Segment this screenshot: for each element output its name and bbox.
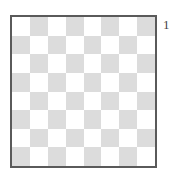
board-square[interactable] bbox=[119, 147, 137, 166]
board-square[interactable] bbox=[101, 54, 119, 73]
board-square[interactable] bbox=[30, 147, 48, 166]
board-square[interactable] bbox=[48, 36, 66, 55]
board-square[interactable] bbox=[12, 92, 30, 111]
board-square[interactable] bbox=[119, 129, 137, 148]
board-square[interactable] bbox=[119, 54, 137, 73]
board-square[interactable] bbox=[12, 17, 30, 36]
board-square[interactable] bbox=[30, 36, 48, 55]
board-square[interactable] bbox=[30, 129, 48, 148]
board-square[interactable] bbox=[84, 110, 102, 129]
board-square[interactable] bbox=[30, 17, 48, 36]
board-square[interactable] bbox=[48, 73, 66, 92]
board-square[interactable] bbox=[119, 92, 137, 111]
board-square[interactable] bbox=[66, 92, 84, 111]
board-square[interactable] bbox=[66, 17, 84, 36]
board-square[interactable] bbox=[137, 54, 155, 73]
board-square[interactable] bbox=[137, 92, 155, 111]
board-square[interactable] bbox=[48, 17, 66, 36]
board-square[interactable] bbox=[48, 147, 66, 166]
board-square[interactable] bbox=[101, 110, 119, 129]
board-square[interactable] bbox=[48, 110, 66, 129]
board-square[interactable] bbox=[66, 129, 84, 148]
board-square[interactable] bbox=[84, 73, 102, 92]
board-square[interactable] bbox=[137, 129, 155, 148]
board-square[interactable] bbox=[101, 73, 119, 92]
board-square[interactable] bbox=[84, 54, 102, 73]
board-square[interactable] bbox=[66, 147, 84, 166]
board-square[interactable] bbox=[48, 54, 66, 73]
board-square[interactable] bbox=[137, 36, 155, 55]
board-square[interactable] bbox=[12, 110, 30, 129]
checkerboard bbox=[10, 15, 157, 168]
board-square[interactable] bbox=[101, 17, 119, 36]
board-square[interactable] bbox=[137, 110, 155, 129]
board-square[interactable] bbox=[101, 36, 119, 55]
board-square[interactable] bbox=[66, 36, 84, 55]
board-square[interactable] bbox=[119, 73, 137, 92]
board-square[interactable] bbox=[12, 73, 30, 92]
board-square[interactable] bbox=[30, 54, 48, 73]
board-square[interactable] bbox=[30, 92, 48, 111]
board-square[interactable] bbox=[119, 36, 137, 55]
board-square[interactable] bbox=[119, 17, 137, 36]
board-square[interactable] bbox=[30, 73, 48, 92]
board-square[interactable] bbox=[84, 92, 102, 111]
board-square[interactable] bbox=[101, 92, 119, 111]
board-square[interactable] bbox=[66, 54, 84, 73]
board-square[interactable] bbox=[137, 73, 155, 92]
board-square[interactable] bbox=[12, 147, 30, 166]
board-square[interactable] bbox=[12, 129, 30, 148]
board-square[interactable] bbox=[84, 129, 102, 148]
board-square[interactable] bbox=[119, 110, 137, 129]
board-square[interactable] bbox=[84, 17, 102, 36]
board-square[interactable] bbox=[48, 92, 66, 111]
board-square[interactable] bbox=[66, 110, 84, 129]
board-square[interactable] bbox=[137, 17, 155, 36]
board-square[interactable] bbox=[48, 129, 66, 148]
board-square[interactable] bbox=[66, 73, 84, 92]
board-square[interactable] bbox=[137, 147, 155, 166]
board-square[interactable] bbox=[84, 147, 102, 166]
board-square[interactable] bbox=[12, 36, 30, 55]
board-square[interactable] bbox=[101, 129, 119, 148]
board-square[interactable] bbox=[12, 54, 30, 73]
board-square[interactable] bbox=[84, 36, 102, 55]
board-square[interactable] bbox=[30, 110, 48, 129]
board-square[interactable] bbox=[101, 147, 119, 166]
board-label: 1 bbox=[163, 17, 170, 33]
